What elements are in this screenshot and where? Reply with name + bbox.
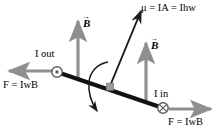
- force-left-label: F = IwB: [3, 80, 38, 91]
- magnetic-field-right-label: B: [151, 40, 158, 51]
- magnetic-moment-label: μ = IA = Ihw: [141, 3, 196, 14]
- current-out-label: I out: [35, 49, 55, 60]
- force-right-label: F = IwB: [168, 117, 203, 128]
- magnetic-moment-arrow: [110, 11, 141, 86]
- pivot-square-icon: [107, 83, 114, 90]
- physics-diagram-figure: μ = IA = Ihw B B I out I in F = IwB F = …: [0, 0, 224, 136]
- b-vector-glyph-right: B: [151, 40, 158, 51]
- magnetic-field-left-label: B: [83, 18, 90, 29]
- current-in-label: I in: [154, 89, 168, 100]
- circle-cross-icon: [158, 103, 168, 113]
- circle-dot-icon: [52, 67, 62, 77]
- b-vector-glyph-left: B: [83, 18, 90, 29]
